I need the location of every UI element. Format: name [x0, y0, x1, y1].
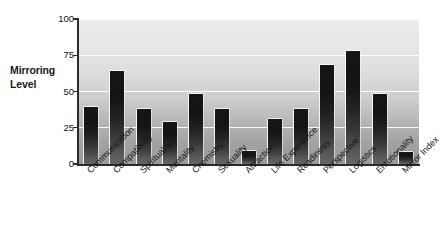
y-tick-mark-25 [73, 127, 78, 128]
y-tick-mark-75 [73, 55, 78, 56]
y-tick-mark-0 [73, 163, 78, 164]
y-tick-mark-100 [73, 18, 78, 19]
y-tick-mark-50 [73, 91, 78, 92]
